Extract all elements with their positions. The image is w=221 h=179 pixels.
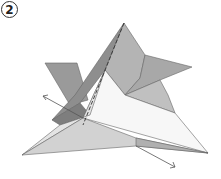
origami-diagram (0, 0, 221, 179)
